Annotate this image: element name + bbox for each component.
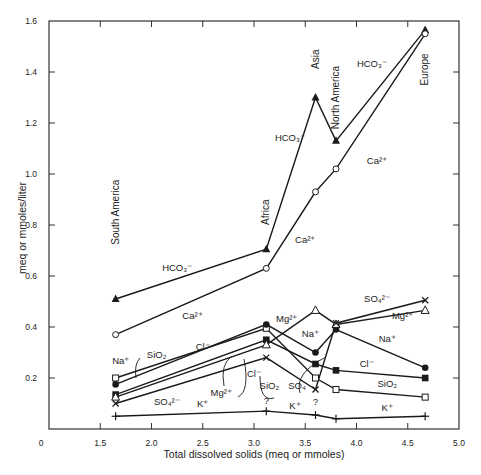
y-tick-label: 1.2 xyxy=(25,118,37,128)
x-tick-label: 2.5 xyxy=(197,438,209,448)
series-annotation: Na⁺ xyxy=(379,333,396,344)
marker-filled-circle xyxy=(112,381,119,388)
series-annotation: SiO₂ xyxy=(377,378,397,389)
annotations: South AmericaAfricaAsiaNorth AmericaEuro… xyxy=(110,49,431,413)
marker-open-circle xyxy=(313,189,319,195)
marker-filled-square xyxy=(422,375,429,382)
series-annotation: Ca²⁺ xyxy=(367,155,387,166)
marker-filled-circle xyxy=(312,349,319,356)
marker-filled-triangle xyxy=(262,245,270,253)
marker-open-circle xyxy=(422,31,428,37)
marker-open-square xyxy=(113,375,119,381)
y-tick-label: 0.2 xyxy=(25,373,37,383)
series-annotation: K⁺ xyxy=(289,400,300,411)
axis-ticks: 1.52.02.53.03.54.04.55.000.20.40.60.81.0… xyxy=(25,16,465,448)
series-annotation: Na⁺ xyxy=(302,328,319,339)
x-tick-label: 4.0 xyxy=(351,438,363,448)
marker-filled-square xyxy=(333,367,340,374)
region-label-europe: Europe xyxy=(419,53,430,86)
series-annotation: Cl⁻ xyxy=(247,368,261,379)
x-axis-title: Total dissolved solids (meq or mmoles) xyxy=(164,448,345,460)
marker-filled-triangle xyxy=(312,93,320,101)
series-annotation: SO₄ xyxy=(288,380,306,391)
series-line-k xyxy=(116,411,426,419)
marker-open-triangle xyxy=(421,306,429,314)
series-annotation: Cl⁻ xyxy=(360,358,374,369)
x-tick-label: 2.0 xyxy=(146,438,158,448)
y-tick-label: 1.0 xyxy=(25,169,37,179)
marker-open-triangle xyxy=(312,306,320,314)
series-annotation: SiO₂ xyxy=(147,349,167,360)
y-tick-label: 1.4 xyxy=(25,67,37,77)
series-annotation: Mg²⁺ xyxy=(392,310,413,321)
y-tick-label: 1.6 xyxy=(25,16,37,26)
marker-filled-circle xyxy=(263,321,270,328)
chart: 1.52.02.53.03.54.04.55.000.20.40.60.81.0… xyxy=(0,0,481,475)
series-annotation: Ca²⁺ xyxy=(295,234,315,245)
x-tick-label: 1.5 xyxy=(94,438,106,448)
series-line-ca2 xyxy=(116,34,426,335)
marker-open-square xyxy=(422,394,428,400)
marker-open-square xyxy=(333,386,339,392)
region-label-africa: Africa xyxy=(260,199,271,225)
series-annotation: Na⁺ xyxy=(112,355,129,366)
x-origin-label: 0 xyxy=(39,438,44,448)
marker-open-square xyxy=(313,375,319,381)
series-annotation: SO₄²⁻ xyxy=(154,396,180,407)
series-annotation: K⁺ xyxy=(382,402,393,413)
series-annotation: Mg²⁺ xyxy=(276,313,297,324)
series-annotation: Ca²⁺ xyxy=(182,310,202,321)
region-label-south-america: South America xyxy=(110,179,121,244)
series-annotation: HCO₃⁻ xyxy=(275,132,305,143)
series-annotation: ? xyxy=(313,396,318,407)
y-axis-title: meq or mmoles/liter xyxy=(16,181,28,274)
x-tick-label: 5.0 xyxy=(453,438,465,448)
y-tick-label: 0.4 xyxy=(25,322,37,332)
series-annotation: SiO₂ xyxy=(260,380,280,391)
series-annotation: SO₄²⁻ xyxy=(364,293,390,304)
x-tick-label: 3.5 xyxy=(299,438,311,448)
series-annotation: HCO₃⁻ xyxy=(357,58,387,69)
series-annotation: HCO₃⁻ xyxy=(162,262,192,273)
marker-filled-circle xyxy=(422,365,429,372)
series-annotation: Cl⁻ xyxy=(196,341,210,352)
x-tick-label: 3.0 xyxy=(248,438,260,448)
marker-open-circle xyxy=(263,265,269,271)
x-tick-label: 4.5 xyxy=(402,438,414,448)
series-annotation: K⁺ xyxy=(197,398,208,409)
region-label-north-america: North America xyxy=(330,65,341,129)
region-label-asia: Asia xyxy=(310,49,321,69)
marker-open-circle xyxy=(333,166,339,172)
marker-open-circle xyxy=(113,332,119,338)
series-annotation: Mg²⁺ xyxy=(211,387,232,398)
